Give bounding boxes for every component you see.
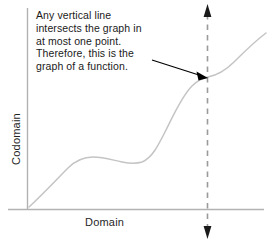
- vertical-line-top-arrowhead: [204, 4, 212, 17]
- vertical-line-test-figure: Any vertical line intersects the graph i…: [0, 0, 273, 242]
- x-axis-label: Domain: [85, 216, 124, 228]
- annotation-pointer-arrowhead: [197, 72, 209, 81]
- annotation-text: Any vertical line intersects the graph i…: [36, 9, 168, 73]
- y-axis-label: Codomain: [10, 99, 22, 179]
- vertical-line-bottom-arrowhead: [204, 226, 212, 239]
